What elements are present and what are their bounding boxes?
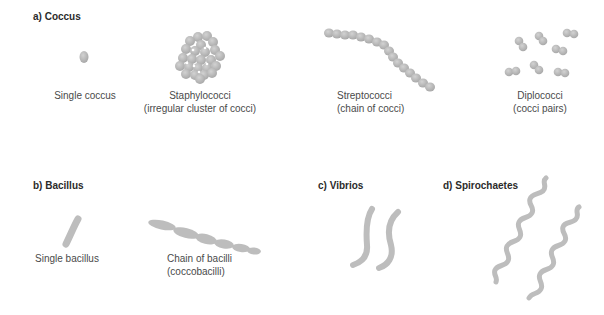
chain-of-bacilli-icon	[147, 218, 261, 255]
single-bacillus-icon	[66, 219, 78, 244]
caption-single-coccus: Single coccus	[50, 89, 120, 102]
caption-single-bacillus: Single bacillus	[35, 252, 115, 265]
vibrios-icon	[353, 209, 398, 268]
spirochaetes-icon	[495, 178, 579, 298]
section-heading-bacillus: b) Bacillus	[33, 180, 84, 191]
single-coccus-icon	[80, 51, 89, 63]
caption-diplococci: Diplococci (cocci pairs)	[500, 89, 580, 115]
organism-illustrations	[0, 0, 604, 315]
section-heading-coccus: a) Coccus	[33, 11, 81, 22]
staphylococci-icon	[175, 31, 225, 84]
caption-staphylococci: Staphylococci (irregular cluster of cocc…	[140, 89, 260, 115]
caption-streptococci: Streptococci (chain of cocci)	[337, 89, 417, 115]
diplococci-icon	[505, 29, 579, 78]
streptococci-icon	[324, 29, 435, 92]
section-heading-vibrios: c) Vibrios	[318, 180, 363, 191]
bacteria-morphology-diagram: a) Coccus Single coccus Staphylococci (i…	[0, 0, 604, 315]
caption-chain-of-bacilli: Chain of bacilli (coccobacilli)	[167, 252, 257, 278]
section-heading-spirochaetes: d) Spirochaetes	[443, 180, 518, 191]
